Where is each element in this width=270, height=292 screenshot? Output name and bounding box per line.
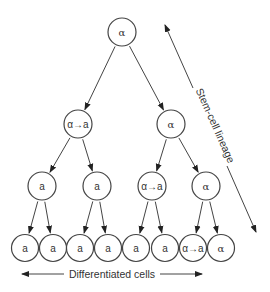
lineage-edge xyxy=(130,46,164,110)
cell-label: α xyxy=(168,119,175,130)
lineage-edge xyxy=(155,202,162,233)
cell-label: a xyxy=(22,243,28,254)
lineage-edge xyxy=(84,201,93,233)
lineage-edge xyxy=(210,202,218,233)
cell-label: a xyxy=(94,181,100,192)
cell-label: a xyxy=(39,181,45,192)
cell-node: α→a xyxy=(180,235,207,262)
stem-lineage-label: Stem-cell lineage xyxy=(194,86,238,165)
cell-node: α→a xyxy=(64,110,92,138)
lineage-edge xyxy=(157,139,167,170)
nodes-layer: αα→aαaaα→aαaaaaaaα→aα xyxy=(12,18,235,262)
lineage-edge xyxy=(50,138,70,172)
lineage-edge xyxy=(83,139,93,170)
cell-node: a xyxy=(28,172,56,200)
cell-node: a xyxy=(123,235,150,262)
lineage-edge xyxy=(196,202,203,233)
cell-node: a xyxy=(95,235,122,262)
cell-label: α xyxy=(218,243,225,254)
cell-label: a xyxy=(105,243,111,254)
cell-label: α xyxy=(119,27,126,38)
lineage-edge xyxy=(179,138,198,172)
cell-node: α xyxy=(108,18,136,46)
cell-label: a xyxy=(162,243,168,254)
cell-label: α→a xyxy=(67,119,89,130)
lineage-edge xyxy=(45,202,50,233)
lineage-edge xyxy=(85,46,115,109)
lineage-edge xyxy=(29,201,38,233)
edges-layer xyxy=(29,46,217,233)
cell-label: a xyxy=(50,243,56,254)
cell-label: a xyxy=(133,243,139,254)
cell-node: α xyxy=(208,235,235,262)
lineage-edge xyxy=(140,201,148,232)
cell-label: a xyxy=(77,243,83,254)
cell-node: a xyxy=(12,235,39,262)
cell-node: a xyxy=(67,235,94,262)
lineage-diagram: αα→aαaaα→aαaaaaaaα→aα Stem-cell lineage … xyxy=(0,0,270,292)
cell-label: α xyxy=(203,181,210,192)
cell-node: a xyxy=(152,235,179,262)
stem-lineage-arrow-up xyxy=(165,25,193,88)
cell-node: a xyxy=(40,235,67,262)
cell-node: α xyxy=(192,172,220,200)
differentiated-cells-label: Differentiated cells xyxy=(69,268,155,280)
cell-node: α xyxy=(157,110,185,138)
cell-node: a xyxy=(83,172,111,200)
cell-node: α→a xyxy=(138,172,166,200)
stem-lineage-arrow-down xyxy=(227,166,256,232)
lineage-edge xyxy=(100,202,105,233)
cell-label: α→a xyxy=(141,181,163,192)
cell-label: α→a xyxy=(182,243,204,254)
